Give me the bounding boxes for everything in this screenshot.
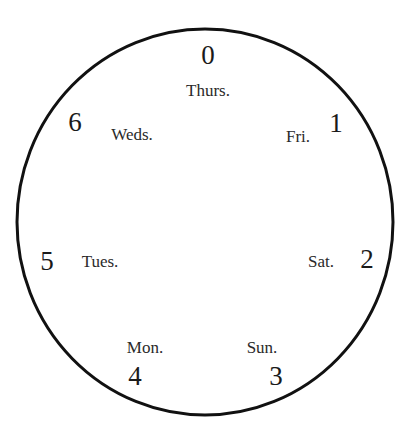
day-label-tuesday: Tues. xyxy=(82,253,119,270)
number-4: 4 xyxy=(128,363,142,390)
number-1: 1 xyxy=(329,110,343,137)
day-label-thursday: Thurs. xyxy=(186,82,230,99)
day-label-saturday: Sat. xyxy=(308,253,334,270)
day-label-monday: Mon. xyxy=(127,339,163,356)
day-clock-diagram: 0 Thurs. 1 Fri. 2 Sat. 3 Sun. 4 Mon. 5 T… xyxy=(0,0,402,426)
day-label-sunday: Sun. xyxy=(247,339,278,356)
number-6: 6 xyxy=(68,109,82,136)
number-0: 0 xyxy=(201,42,215,69)
number-5: 5 xyxy=(40,248,54,275)
day-label-friday: Fri. xyxy=(286,128,310,145)
number-2: 2 xyxy=(360,246,374,273)
day-label-wednesday: Weds. xyxy=(111,126,153,143)
number-3: 3 xyxy=(269,363,283,390)
